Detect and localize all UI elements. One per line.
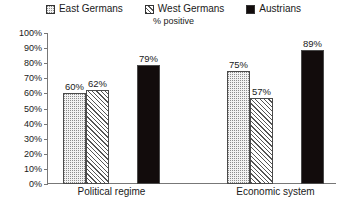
bar-value-label: 75%: [229, 60, 248, 70]
y-tick-mark: [44, 78, 48, 79]
y-tick-label: 60%: [24, 89, 42, 98]
legend-item-label: West Germans: [158, 4, 225, 14]
plot-area: 0%10%20%30%40%50%60%70%80%90%100% 60%62%…: [47, 33, 336, 184]
y-tick-mark: [44, 154, 48, 155]
y-tick-label: 80%: [24, 59, 42, 68]
bar[interactable]: 75%: [227, 71, 250, 184]
chart-subtitle: % positive: [0, 17, 347, 26]
legend-item-east-germans[interactable]: East Germans: [46, 4, 123, 14]
bar[interactable]: 79%: [137, 65, 160, 184]
y-tick-mark: [44, 169, 48, 170]
bar[interactable]: 89%: [301, 50, 324, 184]
legend-swatch-solid-black-icon: [246, 5, 255, 14]
bar-value-label: 62%: [88, 79, 107, 89]
y-tick-mark: [44, 139, 48, 140]
bar[interactable]: 57%: [250, 98, 273, 184]
y-tick-label: 10%: [24, 164, 42, 173]
y-tick-mark: [44, 63, 48, 64]
y-tick-label: 100%: [19, 29, 42, 38]
bar-value-label: 79%: [139, 54, 158, 64]
category-label: Political regime: [78, 186, 146, 197]
legend-item-austrians[interactable]: Austrians: [246, 4, 301, 14]
bar-chart: East GermansWest GermansAustrians % posi…: [0, 0, 347, 209]
y-tick-label: 30%: [24, 134, 42, 143]
y-tick-label: 40%: [24, 119, 42, 128]
bar-value-label: 89%: [303, 39, 322, 49]
legend-swatch-diagonal-hatch-icon: [145, 5, 154, 14]
y-tick-label: 90%: [24, 44, 42, 53]
y-tick-label: 50%: [24, 104, 42, 113]
legend-swatch-dotted-icon: [46, 5, 55, 14]
legend-item-west-germans[interactable]: West Germans: [145, 4, 225, 14]
bar-value-label: 57%: [252, 87, 271, 97]
bar[interactable]: 62%: [86, 90, 109, 184]
y-tick-label: 70%: [24, 74, 42, 83]
y-tick-mark: [44, 124, 48, 125]
legend-item-label: East Germans: [59, 4, 123, 14]
y-tick-mark: [44, 93, 48, 94]
y-tick-mark: [44, 48, 48, 49]
bar[interactable]: 60%: [63, 93, 86, 184]
y-tick-mark: [44, 184, 48, 185]
y-tick-label: 20%: [24, 149, 42, 158]
bar-value-label: 60%: [65, 82, 84, 92]
y-tick-mark: [44, 33, 48, 34]
legend-item-label: Austrians: [259, 4, 301, 14]
y-tick-label: 0%: [29, 180, 42, 189]
chart-legend: East GermansWest GermansAustrians: [0, 2, 347, 16]
y-tick-mark: [44, 109, 48, 110]
category-label: Economic system: [236, 186, 314, 197]
